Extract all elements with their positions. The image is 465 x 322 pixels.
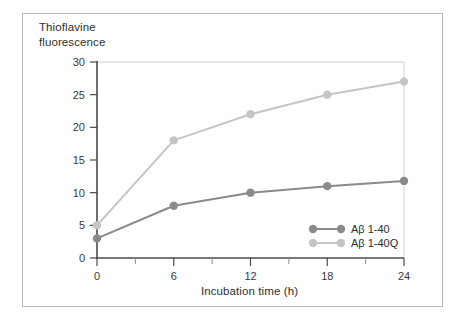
chart-plot: 051015202530 06121824 Aβ 1-40Aβ 1-40Q bbox=[0, 0, 465, 322]
y-tick-label: 0 bbox=[79, 252, 85, 264]
y-tick-label: 15 bbox=[73, 154, 85, 166]
legend-marker bbox=[337, 225, 345, 233]
y-tick-label: 20 bbox=[73, 121, 85, 133]
legend-marker bbox=[309, 239, 317, 247]
series-lines bbox=[97, 82, 404, 239]
data-point bbox=[170, 136, 178, 144]
x-tick-label: 6 bbox=[171, 270, 177, 282]
x-axis-title: Incubation time (h) bbox=[201, 285, 298, 297]
legend-label: Aβ 1-40Q bbox=[351, 237, 399, 249]
data-point bbox=[93, 221, 101, 229]
x-tick-label: 18 bbox=[321, 270, 333, 282]
legend-marker bbox=[309, 225, 317, 233]
series-line bbox=[97, 82, 404, 226]
y-tick-label: 30 bbox=[73, 56, 85, 68]
x-tick-label: 24 bbox=[398, 270, 410, 282]
x-axis-tick-labels: 06121824 bbox=[94, 270, 410, 282]
legend-label: Aβ 1-40 bbox=[351, 223, 390, 235]
data-point bbox=[400, 77, 408, 85]
legend-marker bbox=[337, 239, 345, 247]
x-axis-ticks bbox=[97, 258, 404, 266]
chart-legend: Aβ 1-40Aβ 1-40Q bbox=[309, 223, 399, 249]
y-axis-tick-labels: 051015202530 bbox=[73, 56, 85, 264]
data-point bbox=[400, 177, 408, 185]
x-axis-title-wrap: Incubation time (h) bbox=[0, 285, 465, 297]
data-point bbox=[323, 182, 331, 190]
data-point bbox=[323, 90, 331, 98]
series-points bbox=[93, 77, 408, 242]
y-tick-label: 5 bbox=[79, 219, 85, 231]
data-point bbox=[246, 188, 254, 196]
data-point bbox=[93, 234, 101, 242]
x-tick-label: 12 bbox=[244, 270, 256, 282]
figure: Thioflavine fluorescence 051015202530 06… bbox=[0, 0, 465, 322]
data-point bbox=[170, 202, 178, 210]
data-point bbox=[246, 110, 254, 118]
y-tick-label: 25 bbox=[73, 89, 85, 101]
x-tick-label: 0 bbox=[94, 270, 100, 282]
y-tick-label: 10 bbox=[73, 187, 85, 199]
